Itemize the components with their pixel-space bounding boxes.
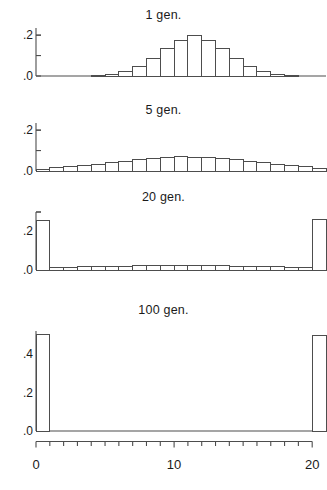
histogram-bar	[229, 160, 243, 171]
histogram-bar	[77, 267, 91, 270]
histogram-bar	[243, 67, 257, 76]
histogram-bar	[285, 166, 299, 171]
histogram-bar	[312, 219, 326, 270]
histogram-bar	[133, 266, 147, 270]
y-axis-labels-panel-4: .0.2.4	[0, 331, 33, 431]
panel-20-gen: 20 gen. .0.2	[0, 190, 327, 295]
histogram-bar	[202, 266, 216, 270]
histogram-bar	[146, 159, 160, 171]
y-axis-labels-panel-3: .0.2	[0, 212, 33, 270]
y-axis-tick-label: .0	[23, 264, 33, 276]
histogram-bar	[188, 36, 202, 76]
x-axis-tick-label: 20	[305, 458, 319, 471]
y-axis-tick-label: .2	[23, 225, 33, 237]
histogram-bar	[119, 266, 133, 270]
plot-area-panel-4	[36, 331, 326, 431]
histogram-bar	[77, 166, 91, 171]
panel-title-100-gen: 100 gen.	[0, 303, 327, 317]
histogram-bar	[298, 167, 312, 171]
histogram-bar	[216, 48, 230, 76]
plot-area-panel-3	[36, 212, 326, 270]
y-axis-tick-label: .4	[23, 348, 33, 360]
histogram-bar	[50, 268, 64, 270]
histogram-bar	[133, 67, 147, 76]
histogram-bar	[160, 48, 174, 76]
histogram-bar	[188, 157, 202, 171]
histogram-bar	[160, 266, 174, 270]
plot-area-panel-1	[36, 28, 326, 76]
histogram-bar	[105, 266, 119, 270]
y-axis-tick-label: .0	[23, 425, 33, 437]
histogram-bar	[188, 266, 202, 270]
histogram-bar	[36, 220, 50, 270]
histogram-bar	[229, 58, 243, 76]
histogram-bar	[91, 267, 105, 270]
histogram-bar	[36, 170, 50, 171]
histogram-bar	[229, 266, 243, 270]
y-axis-tick-label: .0	[23, 165, 33, 177]
histogram-bar	[64, 267, 78, 270]
histogram-bar	[285, 267, 299, 270]
histogram-bar	[105, 163, 119, 171]
histogram-bar	[174, 40, 188, 76]
histogram-bar	[312, 335, 326, 431]
histogram-bar	[36, 335, 50, 431]
plot-area-panel-2	[36, 123, 326, 171]
histogram-bar	[285, 75, 299, 76]
histogram-bar	[216, 159, 230, 171]
histogram-bar	[257, 72, 271, 76]
histogram-bar	[202, 158, 216, 171]
histogram-bar	[271, 267, 285, 270]
histogram-bar	[271, 164, 285, 171]
histogram-bar	[160, 158, 174, 171]
histogram-bar	[271, 74, 285, 76]
genetic-drift-figure: 1 gen. .0.2 5 gen. .0.2 20 gen. .0.2 100…	[0, 0, 327, 490]
histogram-bar	[105, 74, 119, 76]
x-axis: 01020	[36, 441, 326, 481]
histogram-bar	[257, 163, 271, 171]
histogram-bar	[146, 58, 160, 76]
panel-5-gen: 5 gen. .0.2	[0, 95, 327, 190]
histogram-bar	[312, 169, 326, 171]
y-axis-tick-label: .2	[23, 29, 33, 41]
histogram-bar	[202, 40, 216, 76]
histogram-bar	[133, 160, 147, 171]
y-axis-tick-label: .2	[23, 387, 33, 399]
histogram-bar	[146, 266, 160, 270]
histogram-bar	[119, 161, 133, 171]
panel-100-gen: 100 gen. .0.2.4 01020	[0, 295, 327, 490]
panel-1-gen: 1 gen. .0.2	[0, 0, 327, 95]
histogram-bar	[174, 266, 188, 270]
panel-title-20-gen: 20 gen.	[0, 190, 327, 204]
histogram-bar	[119, 72, 133, 76]
histogram-bar	[216, 266, 230, 270]
panel-title-5-gen: 5 gen.	[0, 103, 327, 117]
histogram-bar	[91, 164, 105, 171]
histogram-bar	[243, 266, 257, 270]
x-axis-tick-label: 0	[32, 458, 39, 471]
histogram-bar	[91, 75, 105, 76]
histogram-bar	[257, 267, 271, 270]
y-axis-tick-label: .0	[23, 70, 33, 82]
y-axis-labels-panel-1: .0.2	[0, 28, 33, 76]
histogram-bar	[50, 168, 64, 171]
histogram-bar	[64, 167, 78, 171]
x-axis-tick-label: 10	[167, 458, 181, 471]
histogram-bar	[243, 161, 257, 171]
histogram-bar	[298, 268, 312, 270]
histogram-bar	[174, 157, 188, 171]
panel-title-1-gen: 1 gen.	[0, 8, 327, 22]
y-axis-tick-label: .2	[23, 124, 33, 136]
y-axis-labels-panel-2: .0.2	[0, 123, 33, 171]
